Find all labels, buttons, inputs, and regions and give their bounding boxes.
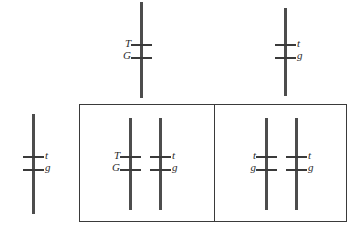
allele-label: t [45,150,48,161]
chromosome-crossbar [256,156,277,158]
allele-label: t [172,150,175,161]
allele-label: t [308,150,311,161]
cell-one-chromosome-left: TG [129,118,132,210]
cell-box-divider [214,105,215,221]
allele-label: T [125,38,131,49]
cell-two-chromosome-right: tg [295,118,298,210]
allele-label: g [308,162,314,173]
allele-label: G [123,50,131,61]
allele-label: T [114,150,120,161]
chromosome-crossbar [286,169,307,171]
allele-label: t [297,38,300,49]
chromosome-crossbar [150,169,171,171]
chromosome-crossbar [275,44,296,46]
allele-label: G [112,162,120,173]
chromosome-crossbar [120,169,141,171]
allele-label: g [297,50,303,61]
cell-one-chromosome-right: tg [159,118,162,210]
chromosome-crossbar [275,57,296,59]
chromosome-crossbar [256,169,277,171]
chromosome-rod [32,114,35,214]
allele-label: g [251,162,257,173]
left-standalone-chromosome: tg [32,114,35,214]
top-right-chromosome: tg [284,8,287,96]
chromosome-crossbar [23,169,44,171]
allele-label: g [45,162,51,173]
allele-label: t [253,150,256,161]
chromosome-diagram-canvas: TGtgtgTGtgtgtg [0,0,360,235]
chromosome-crossbar [23,156,44,158]
top-center-chromosome: TG [140,2,143,98]
chromosome-rod [265,118,268,210]
cell-two-chromosome-left: tg [265,118,268,210]
chromosome-rod [295,118,298,210]
chromosome-rod [140,2,143,98]
chromosome-crossbar [286,156,307,158]
chromosome-rod [129,118,132,210]
allele-label: g [172,162,178,173]
chromosome-crossbar [131,44,152,46]
chromosome-rod [159,118,162,210]
chromosome-rod [284,8,287,96]
chromosome-crossbar [120,156,141,158]
chromosome-crossbar [150,156,171,158]
chromosome-crossbar [131,57,152,59]
